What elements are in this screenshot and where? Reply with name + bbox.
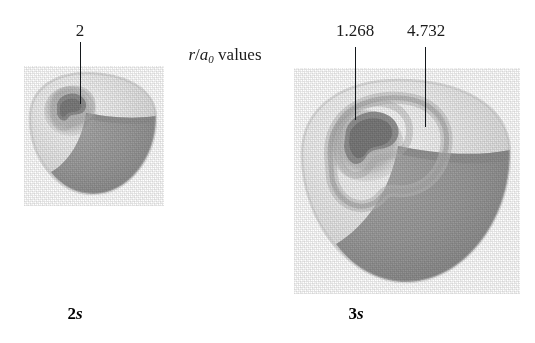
caption-3s-number: 3 xyxy=(348,304,357,323)
caption-3s: 3s xyxy=(348,305,363,322)
values-word: values xyxy=(214,45,262,64)
leader-line-3s-1 xyxy=(355,47,356,120)
node-value-label-3s-2: 4.732 xyxy=(407,22,445,39)
orbital-3s-illustration xyxy=(294,68,520,294)
node-value-label-3s-1: 1.268 xyxy=(336,22,374,39)
r-symbol: r xyxy=(188,45,195,64)
caption-2s-number: 2 xyxy=(67,304,76,323)
caption-2s: 2s xyxy=(67,305,82,322)
orbital-figure: r/a0 values 2 1.268 4.732 2s 3s xyxy=(0,0,535,343)
caption-2s-letter: s xyxy=(76,304,83,323)
a-symbol: a xyxy=(200,45,209,64)
node-value-label-2s-1: 2 xyxy=(76,22,85,39)
leader-line-2s-1 xyxy=(80,42,81,104)
r-over-a0-values-note: r/a0 values xyxy=(188,46,261,65)
leader-line-3s-2 xyxy=(425,47,426,127)
caption-3s-letter: s xyxy=(357,304,364,323)
orbital-2s-illustration xyxy=(24,66,164,206)
